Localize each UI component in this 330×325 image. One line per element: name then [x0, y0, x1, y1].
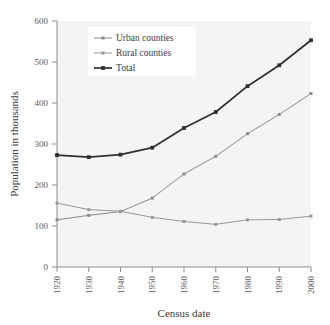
y-tick-label: 500 [35, 57, 49, 67]
data-point-marker [150, 146, 154, 150]
y-axis-title: Population in thousands [8, 91, 20, 197]
data-point-marker [183, 172, 186, 175]
x-tick-label: 1970 [211, 276, 221, 295]
legend-label-urban-counties: Urban counties [116, 33, 174, 43]
data-point-marker [119, 210, 122, 213]
x-tick-label: 1990 [274, 276, 284, 295]
y-axis-tick-labels: 0 100 200 300 400 500 600 [35, 16, 49, 272]
legend-swatch-marker [101, 66, 105, 70]
y-tick-label: 300 [35, 139, 49, 149]
x-tick-label: 2000 [306, 276, 316, 295]
data-point-marker [87, 208, 90, 211]
data-point-marker [119, 153, 123, 157]
legend-swatch-marker [102, 52, 105, 55]
data-point-marker [214, 110, 218, 114]
x-tick-label: 1930 [84, 276, 94, 295]
y-tick-label: 0 [44, 262, 49, 272]
data-point-marker [214, 155, 217, 158]
y-axis-ticks [52, 21, 57, 267]
data-point-marker [310, 92, 313, 95]
legend-label-rural-counties: Rural counties [116, 48, 171, 58]
legend-swatch-marker [102, 37, 105, 40]
y-tick-label: 100 [35, 221, 49, 231]
data-point-marker [277, 63, 281, 67]
data-point-marker [246, 218, 249, 221]
line-chart: 0 100 200 300 400 500 600 1920 1930 1940… [0, 0, 330, 325]
x-tick-label: 1950 [147, 276, 157, 295]
chart-legend: Urban counties Rural counties Total [88, 27, 196, 76]
data-point-marker [246, 84, 250, 88]
data-point-marker [55, 153, 59, 157]
data-point-marker [214, 223, 217, 226]
data-point-marker [278, 113, 281, 116]
data-point-marker [278, 218, 281, 221]
x-tick-label: 1920 [52, 276, 62, 295]
data-point-marker [56, 202, 59, 205]
data-point-marker [151, 216, 154, 219]
data-point-marker [87, 214, 90, 217]
data-point-marker [182, 126, 186, 130]
data-point-marker [309, 38, 313, 42]
data-point-marker [310, 215, 313, 218]
data-point-marker [151, 197, 154, 200]
x-tick-label: 1980 [243, 276, 253, 295]
data-point-marker [87, 155, 91, 159]
data-point-marker [56, 218, 59, 221]
x-tick-label: 1940 [116, 276, 126, 295]
y-tick-label: 600 [35, 16, 49, 26]
x-axis-tick-labels: 1920 1930 1940 1950 1960 1970 1980 1990 … [52, 276, 316, 295]
data-point-marker [246, 132, 249, 135]
legend-label-total: Total [116, 63, 136, 73]
x-tick-label: 1960 [179, 276, 189, 295]
chart-figure: 0 100 200 300 400 500 600 1920 1930 1940… [0, 0, 330, 325]
data-point-marker [183, 220, 186, 223]
x-axis-title: Census date [158, 307, 211, 319]
y-tick-label: 400 [35, 98, 49, 108]
y-tick-label: 200 [35, 180, 49, 190]
x-axis-ticks [57, 267, 311, 272]
